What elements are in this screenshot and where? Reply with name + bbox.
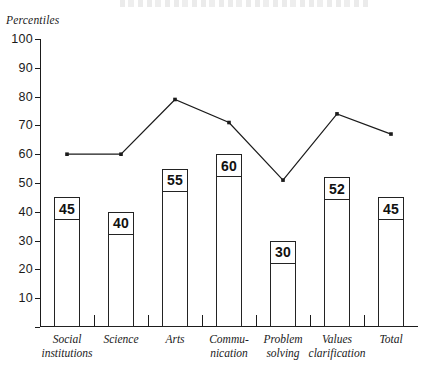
x-category-label-0: Socialinstitutions <box>41 333 92 360</box>
line-series <box>40 39 418 327</box>
y-tick-label-60: 60 <box>18 147 33 161</box>
line-marker-5 <box>335 112 339 116</box>
line-marker-3 <box>227 121 231 125</box>
y-tick-label-20: 20 <box>18 262 33 276</box>
line-marker-6 <box>389 132 393 136</box>
y-tick-label-10: 10 <box>18 291 33 305</box>
x-category-label-6: Total <box>379 333 402 347</box>
y-tick-0 <box>35 327 40 328</box>
chart-plot-area: 102030405060708090100 45405560305245 <box>40 39 418 327</box>
x-category-label-1: Science <box>103 333 138 347</box>
y-tick-label-90: 90 <box>18 61 33 75</box>
y-tick-label-50: 50 <box>18 176 33 190</box>
y-tick-label-100: 100 <box>11 32 33 46</box>
x-category-label-4: Problemsolving <box>263 333 302 360</box>
y-axis-title: Percentiles <box>6 14 60 26</box>
line-marker-2 <box>173 98 177 102</box>
line-marker-0 <box>65 152 69 156</box>
line-path <box>67 99 391 180</box>
scan-title-strip <box>120 0 370 7</box>
x-category-label-2: Arts <box>165 333 184 347</box>
y-tick-label-40: 40 <box>18 205 33 219</box>
y-tick-label-80: 80 <box>18 90 33 104</box>
x-category-label-5: Valuesclarification <box>309 333 366 360</box>
line-marker-1 <box>119 152 123 156</box>
y-tick-label-70: 70 <box>18 118 33 132</box>
y-tick-label-30: 30 <box>18 234 33 248</box>
x-category-label-3: Commu-nication <box>209 333 249 360</box>
line-marker-4 <box>281 178 285 182</box>
